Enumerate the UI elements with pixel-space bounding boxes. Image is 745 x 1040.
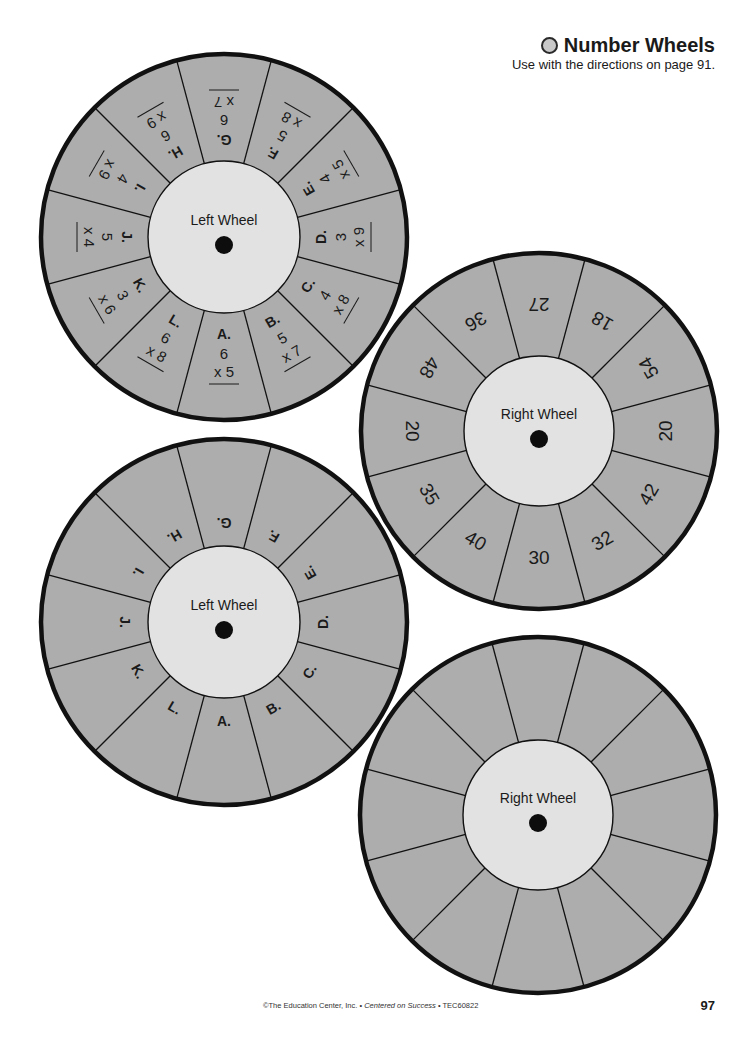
number-wheels-canvas: Left WheelA.6x 5B.5x 7C.4x 8D.3x 9E.4x 5… <box>0 0 745 1040</box>
wheel-segment: 27 <box>528 294 549 315</box>
factor-top: 6 <box>220 112 228 129</box>
pin-hole-icon[interactable] <box>215 621 233 639</box>
factor-bottom: x 9 <box>350 227 367 247</box>
problem-letter: J. <box>117 616 133 628</box>
problem-letter: D. <box>313 230 329 244</box>
factor-top: 5 <box>99 233 116 241</box>
right-wheel-filled: Right Wheel303242205418273648203540 <box>361 253 717 609</box>
wheel-label: Right Wheel <box>501 406 577 422</box>
wheel-segment: 20 <box>402 420 423 441</box>
problem-letter: J. <box>119 231 135 243</box>
book-title: Centered on Success <box>364 1001 436 1010</box>
wheel-segment: J. <box>117 616 133 628</box>
problem-letter: D. <box>315 615 331 629</box>
left-wheel-blank: Left WheelA.B.C.D.E.F.G.H.I.J.K.L. <box>41 439 407 805</box>
answer-value: 20 <box>402 420 423 441</box>
factor-top: 3 <box>332 233 349 241</box>
pin-hole-icon[interactable] <box>529 814 547 832</box>
problem-letter: G. <box>217 515 232 531</box>
pin-hole-icon[interactable] <box>530 430 548 448</box>
factor-top: 6 <box>220 345 228 362</box>
right-wheel-blank: Right Wheel <box>360 637 716 993</box>
factor-bottom: x 5 <box>214 363 234 380</box>
answer-value: 27 <box>528 294 549 315</box>
pin-hole-icon[interactable] <box>215 236 233 254</box>
problem-letter: A. <box>217 326 231 342</box>
problem-letter: G. <box>217 132 232 148</box>
copyright-prefix: ©The Education Center, Inc. • <box>263 1001 364 1010</box>
wheel-segment: D. <box>315 615 331 629</box>
wheel-segment: G. <box>217 515 232 531</box>
left-wheel-filled: Left WheelA.6x 5B.5x 7C.4x 8D.3x 9E.4x 5… <box>41 54 407 420</box>
answer-value: 30 <box>528 547 549 568</box>
wheel-label: Left Wheel <box>191 212 258 228</box>
wheel-segment: 20 <box>655 420 676 441</box>
page-number: 97 <box>701 998 715 1013</box>
wheel-label: Right Wheel <box>500 790 576 806</box>
factor-bottom: x 4 <box>81 227 98 247</box>
product-code: • TEC60822 <box>436 1001 479 1010</box>
problem-letter: A. <box>217 713 231 729</box>
wheel-label: Left Wheel <box>191 597 258 613</box>
copyright-line: ©The Education Center, Inc. • Centered o… <box>263 1001 478 1010</box>
wheel-segment: 30 <box>528 547 549 568</box>
factor-bottom: x 7 <box>214 94 234 111</box>
answer-value: 20 <box>655 420 676 441</box>
wheel-segment: A. <box>217 713 231 729</box>
